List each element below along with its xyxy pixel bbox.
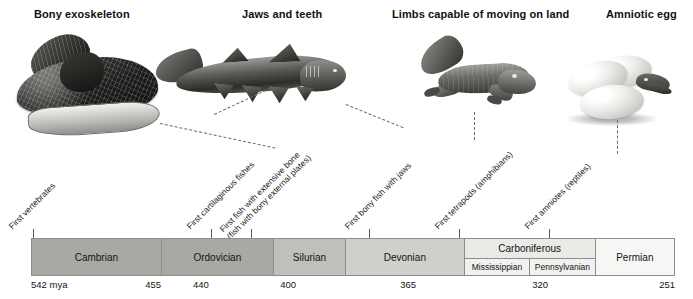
period-devonian[interactable]: Devonian (346, 239, 465, 275)
subperiod-label: Mississippian (472, 262, 523, 272)
tetrapod-head (497, 69, 537, 96)
event-line: (fish with bony external plates) (225, 153, 313, 241)
leader-line-bony-fish (346, 104, 404, 128)
shark-dorsal-fin-1 (222, 47, 249, 63)
period-label: Silurian (293, 252, 326, 263)
carboniferous-subperiods: Mississippian Pennsylvanian (465, 259, 595, 275)
axis-tick-455: 455 (145, 279, 161, 290)
event-tick-first-bony-fish-with-jaws (369, 229, 370, 238)
event-tick-first-tetrapods (459, 229, 460, 238)
axis-tick-320: 320 (532, 279, 548, 290)
event-line: First tetrapods (amphibians) (433, 150, 515, 232)
subperiod-mississippian[interactable]: Mississippian (465, 259, 530, 275)
period-label: Cambrian (75, 252, 118, 263)
period-permian[interactable]: Permian (596, 239, 674, 275)
shark-eye (333, 69, 337, 72)
heading-limbs-on-land: Limbs capable of moving on land (392, 8, 569, 20)
geologic-timeline-bar: Cambrian Ordovician Silurian Devonian Ca… (31, 238, 675, 276)
period-silurian[interactable]: Silurian (274, 239, 346, 275)
figure-canvas: Bony exoskeleton Jaws and teeth Limbs ca… (0, 0, 693, 299)
period-label: Ordovician (193, 252, 241, 263)
heading-bony-exoskeleton: Bony exoskeleton (34, 8, 130, 20)
heading-jaws-and-teeth: Jaws and teeth (242, 8, 322, 20)
event-label-first-tetrapods: First tetrapods (amphibians) (433, 150, 515, 232)
event-tick-first-fish-extensive-bone (251, 229, 252, 238)
leader-line-tetrapod (474, 112, 475, 140)
period-label: Permian (616, 252, 653, 263)
leader-line-amniote (617, 120, 618, 154)
tetrapod-eye (512, 74, 517, 78)
hatchling-eye (644, 78, 648, 81)
axis-tick-440: 440 (193, 279, 209, 290)
heading-amniotic-egg: Amniotic egg (606, 8, 677, 20)
axis-tick-542: 542 mya (31, 279, 67, 290)
axis-tick-251: 251 (659, 279, 675, 290)
event-line: First bony fish with jaws (343, 161, 413, 231)
period-cambrian[interactable]: Cambrian (32, 239, 162, 275)
event-tick-first-amniotes (549, 229, 550, 238)
subperiod-pennsylvanian[interactable]: Pennsylvanian (530, 259, 594, 275)
shark-dorsal-fin-2 (268, 43, 301, 63)
period-label: Devonian (384, 252, 426, 263)
subperiod-label: Pennsylvanian (535, 262, 590, 272)
period-ordovician[interactable]: Ordovician (162, 239, 274, 275)
axis-tick-400: 400 (280, 279, 296, 290)
shark-gill-1 (306, 66, 307, 77)
event-tick-first-vertebrates (33, 229, 34, 238)
event-label-first-amniotes: First amniotes (reptiles) (523, 162, 593, 232)
event-label-first-bony-fish-with-jaws: First bony fish with jaws (343, 161, 413, 231)
shark-gill-4 (318, 66, 319, 77)
shark-gill-3 (314, 66, 315, 77)
carboniferous-title: Carboniferous (465, 239, 595, 259)
event-line: First amniotes (reptiles) (523, 162, 593, 232)
shark-ventral-spine-4 (294, 86, 313, 102)
period-label: Carboniferous (498, 243, 561, 254)
event-line: First vertebrates (7, 181, 57, 231)
event-label-first-fish-extensive-bone: First fish with extensive bone (fish wit… (218, 147, 313, 242)
shark-gill-2 (310, 66, 311, 77)
period-carboniferous[interactable]: Carboniferous Mississippian Pennsylvania… (465, 239, 596, 275)
axis-tick-365: 365 (400, 279, 416, 290)
event-label-first-vertebrates: First vertebrates (7, 181, 57, 231)
event-tick-first-cartilaginous-fishes (211, 229, 212, 238)
leader-line-ostracoderm (160, 123, 276, 149)
